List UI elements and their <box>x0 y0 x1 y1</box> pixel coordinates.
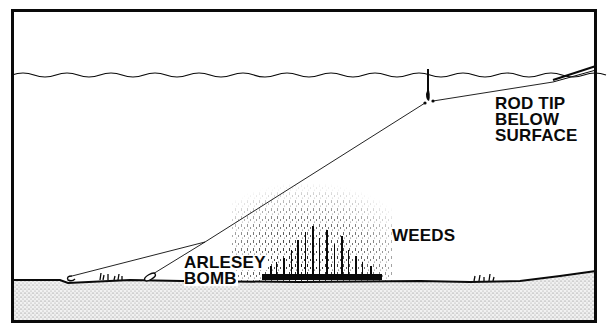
water-surface <box>12 73 606 77</box>
bomb-label-line-2: BOMB <box>184 271 238 286</box>
float-icon <box>423 69 434 105</box>
weeds-label-text: WEEDS <box>392 228 455 244</box>
weeds-label: WEEDS <box>392 228 455 244</box>
hook-icon <box>68 276 76 281</box>
bomb-label-line-1: ARLESEY <box>184 255 267 270</box>
rod-tip-label-line-3: SURFACE <box>495 128 578 144</box>
rod-tip-label: ROD TIP BELOW SURFACE <box>495 96 578 144</box>
bomb-label: ARLESEY BOMB <box>184 255 267 286</box>
fishing-diagram <box>0 0 607 334</box>
